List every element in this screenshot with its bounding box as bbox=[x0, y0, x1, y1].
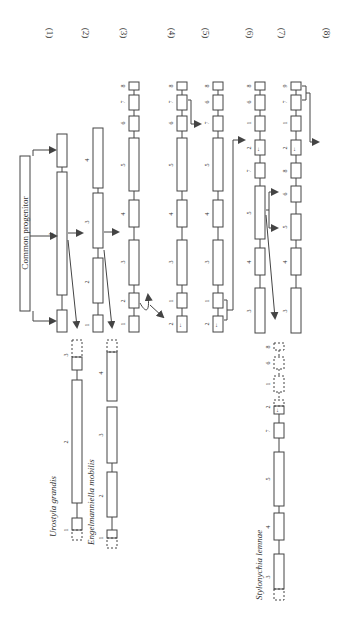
stage-6: ↓ 8 6 1 2 7 5 4 3 bbox=[246, 82, 277, 333]
svg-text:5: 5 bbox=[168, 164, 174, 167]
svg-text:6: 6 bbox=[120, 122, 126, 125]
svg-text:7: 7 bbox=[265, 430, 271, 433]
svg-text:↓: ↓ bbox=[293, 146, 296, 152]
svg-text:1: 1 bbox=[204, 300, 210, 303]
svg-text:4: 4 bbox=[204, 213, 210, 216]
svg-text:3: 3 bbox=[84, 221, 90, 224]
svg-text:1: 1 bbox=[265, 383, 271, 386]
svg-text:8: 8 bbox=[120, 85, 126, 88]
svg-text:9: 9 bbox=[282, 85, 288, 88]
stage-2: 4 3 2 1 bbox=[84, 128, 118, 332]
species-label-stylonychia: Stylonychia lemnae bbox=[254, 530, 264, 600]
svg-text:8: 8 bbox=[265, 346, 271, 349]
svg-text:3: 3 bbox=[63, 354, 69, 357]
stage-7: ↓ 9 7 1 2 8 6 5 4 3 bbox=[282, 82, 318, 333]
svg-text:4: 4 bbox=[282, 261, 288, 264]
svg-text:↓: ↓ bbox=[257, 146, 260, 152]
svg-text:3: 3 bbox=[98, 434, 104, 437]
svg-text:8: 8 bbox=[204, 85, 210, 88]
svg-text:1: 1 bbox=[84, 324, 90, 327]
svg-text:7: 7 bbox=[168, 101, 174, 104]
svg-text:5: 5 bbox=[120, 164, 126, 167]
column-label-7: (7) bbox=[277, 28, 287, 39]
svg-text:1: 1 bbox=[282, 122, 288, 125]
column-label-3: (3) bbox=[119, 28, 129, 39]
svg-text:2: 2 bbox=[282, 147, 288, 150]
svg-text:3: 3 bbox=[48, 149, 54, 152]
svg-text:4: 4 bbox=[246, 261, 252, 264]
svg-text:↓: ↓ bbox=[276, 407, 279, 413]
species-label-engelmanniella: Engelmanniella mobilis bbox=[86, 459, 96, 546]
svg-text:6: 6 bbox=[204, 101, 210, 104]
column-labels: (1) (2) (3) (4) (5) (6) (7) (8) bbox=[45, 28, 332, 39]
svg-text:4: 4 bbox=[120, 213, 126, 216]
column-label-8: (8) bbox=[322, 28, 332, 39]
svg-text:3: 3 bbox=[265, 576, 271, 579]
common-progenitor-label: Common progenitor bbox=[20, 196, 30, 269]
svg-text:8: 8 bbox=[168, 85, 174, 88]
stage-3: 8 7 6 5 4 3 2 1 bbox=[120, 82, 163, 332]
svg-text:8: 8 bbox=[246, 85, 252, 88]
column-label-6: (6) bbox=[245, 28, 255, 39]
svg-text:4: 4 bbox=[168, 213, 174, 216]
svg-text:6: 6 bbox=[282, 193, 288, 196]
svg-text:7: 7 bbox=[204, 122, 210, 125]
column-label-1: (1) bbox=[45, 28, 55, 39]
gene-evolution-diagram: (1) (2) (3) (4) (5) (6) (7) (8) Common p… bbox=[0, 0, 340, 633]
svg-text:2: 2 bbox=[204, 323, 210, 326]
stage-5: ↓ 8 6 7 5 4 3 1 2 bbox=[204, 82, 244, 332]
svg-text:1: 1 bbox=[98, 537, 104, 540]
svg-text:2: 2 bbox=[265, 406, 271, 409]
svg-text:6: 6 bbox=[265, 362, 271, 365]
svg-text:6: 6 bbox=[168, 122, 174, 125]
column-label-4: (4) bbox=[167, 28, 177, 39]
species-stylonychia-lemnae: ↓ 8 6 1 2 7 5 4 3 Stylonychia lemnae bbox=[254, 343, 284, 600]
svg-text:4: 4 bbox=[84, 159, 90, 162]
svg-text:4: 4 bbox=[98, 372, 104, 375]
stage-4: ↓ 8 7 6 5 4 3 1 2 bbox=[168, 82, 200, 332]
svg-text:6: 6 bbox=[246, 101, 252, 104]
svg-text:3: 3 bbox=[168, 261, 174, 264]
svg-text:2: 2 bbox=[63, 441, 69, 444]
svg-text:↓: ↓ bbox=[179, 322, 182, 328]
svg-text:8: 8 bbox=[282, 170, 288, 173]
svg-text:7: 7 bbox=[246, 170, 252, 173]
svg-text:1: 1 bbox=[246, 122, 252, 125]
species-label-urostyla: Urostyla grandis bbox=[48, 476, 58, 537]
svg-text:5: 5 bbox=[282, 226, 288, 229]
svg-text:1: 1 bbox=[120, 323, 126, 326]
species-engelmanniella-mobilis: 4 3 2 1 Engelmanniella mobilis bbox=[86, 340, 117, 548]
svg-text:2: 2 bbox=[168, 323, 174, 326]
svg-text:2: 2 bbox=[246, 147, 252, 150]
svg-text:↓: ↓ bbox=[215, 322, 218, 328]
svg-text:7: 7 bbox=[120, 101, 126, 104]
svg-text:1: 1 bbox=[48, 321, 54, 324]
svg-text:1: 1 bbox=[63, 529, 69, 532]
svg-text:4: 4 bbox=[265, 526, 271, 529]
svg-text:7: 7 bbox=[282, 101, 288, 104]
svg-text:5: 5 bbox=[265, 478, 271, 481]
svg-text:1: 1 bbox=[168, 300, 174, 303]
column-label-5: (5) bbox=[201, 28, 211, 39]
svg-text:2: 2 bbox=[120, 300, 126, 303]
column-label-2: (2) bbox=[81, 28, 91, 39]
svg-text:2: 2 bbox=[98, 495, 104, 498]
svg-text:3: 3 bbox=[204, 261, 210, 264]
svg-text:2: 2 bbox=[84, 281, 90, 284]
svg-text:2: 2 bbox=[48, 233, 54, 236]
svg-text:3: 3 bbox=[246, 310, 252, 313]
svg-text:3: 3 bbox=[120, 261, 126, 264]
svg-text:3: 3 bbox=[282, 310, 288, 313]
svg-text:5: 5 bbox=[204, 164, 210, 167]
svg-text:5: 5 bbox=[246, 212, 252, 215]
stage-1: 3 2 1 bbox=[48, 134, 82, 332]
species-urostyla-grandis: 3 2 1 Urostyla grandis bbox=[48, 340, 82, 540]
